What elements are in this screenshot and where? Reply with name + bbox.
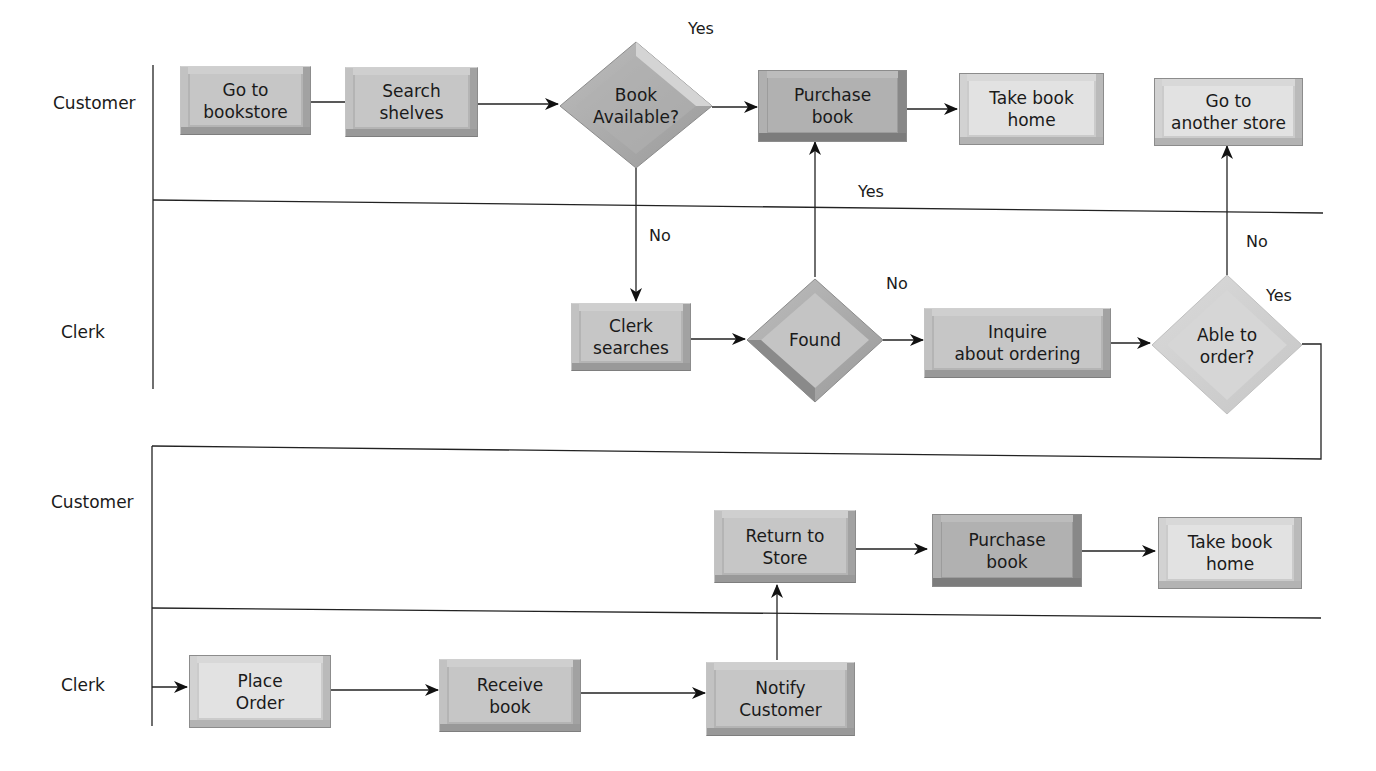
lane-label-clerk-1: Clerk [61,322,105,342]
node-take-book-home-2[interactable]: Take book home [1158,517,1302,589]
node-label: Receive book [477,674,544,718]
diamond-label-book-available: Book Available? [586,80,686,132]
lane-dividers [152,65,1323,726]
node-label: Purchase book [794,84,871,128]
node-label: Inquire about ordering [954,321,1080,365]
node-purchase-book-1[interactable]: Purchase book [758,70,907,142]
node-label: Go to another store [1171,90,1286,134]
node-return-to-store[interactable]: Return to Store [714,510,856,583]
node-go-to-another-store[interactable]: Go to another store [1154,78,1303,146]
diamond-label-found: Found [770,325,860,355]
node-take-book-home-1[interactable]: Take book home [959,73,1104,145]
edge-label-found-no: No [886,274,908,293]
lane-divider-1 [153,200,1323,213]
lane-label-customer-2: Customer [51,492,134,512]
diamond-label-able-to-order: Able to order? [1180,320,1274,372]
node-search-shelves[interactable]: Search shelves [345,67,478,137]
lane-label-customer-1: Customer [53,93,136,113]
node-label: Go to bookstore [203,79,287,123]
node-label: Notify Customer [739,677,822,721]
able-to-order-yes-connector [152,344,1321,459]
edge-label-able-yes: Yes [1266,286,1292,305]
node-go-to-bookstore[interactable]: Go to bookstore [180,66,311,135]
node-label: Return to Store [746,525,825,569]
node-label: Place Order [236,670,284,714]
node-clerk-searches[interactable]: Clerk searches [571,303,691,371]
lane-divider-3 [152,608,1321,618]
node-label: Purchase book [968,529,1045,573]
lane-label-clerk-2: Clerk [61,675,105,695]
node-inquire-about-ordering[interactable]: Inquire about ordering [924,308,1111,378]
node-label: Clerk searches [593,315,669,359]
edge-label-found-yes: Yes [858,182,884,201]
node-purchase-book-2[interactable]: Purchase book [932,514,1082,587]
node-receive-book[interactable]: Receive book [439,659,581,732]
node-label: Take book home [989,87,1074,131]
node-label: Take book home [1188,531,1273,575]
node-notify-customer[interactable]: Notify Customer [706,662,855,736]
node-place-order[interactable]: Place Order [189,655,331,728]
edge-label-available-yes: Yes [688,19,714,38]
edge-label-able-no: No [1246,232,1268,251]
edge-label-available-no: No [649,226,671,245]
node-label: Search shelves [379,80,443,124]
